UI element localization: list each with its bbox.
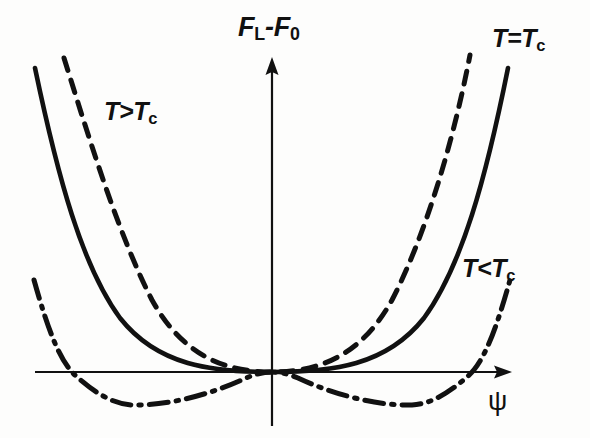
psi-axis-label: ψ [488,388,507,415]
annotation-t-greater-tc: T>Tc [104,99,157,126]
annotation-t-equal-tc: T=Tc [492,26,545,53]
free-energy-label-F1: F [238,12,254,42]
annotation-t-less-tc-text: T<T [462,254,506,282]
annotation-t-equal-tc-text: T=T [492,24,536,52]
annotation-t-equal-tc-sub: c [536,36,545,54]
free-energy-axis-label: FL-F0 [238,14,300,44]
annotation-t-greater-tc-text: T>T [104,97,148,125]
plot-canvas [0,0,590,438]
annotation-t-greater-tc-sub: c [148,109,157,127]
free-energy-label-minus-F2: -F [265,12,290,42]
free-energy-label-sub-0: 0 [290,24,300,44]
landau-free-energy-figure: FL-F0 T=Tc T>Tc T<Tc ψ [0,0,590,438]
free-energy-label-sub-L: L [254,24,265,44]
annotation-t-less-tc: T<Tc [462,256,515,283]
annotation-t-less-tc-sub: c [506,266,515,284]
